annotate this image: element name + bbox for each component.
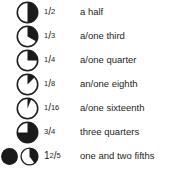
fraction-denominator: 4 [51, 128, 55, 136]
fraction-notation: 1/16 [42, 96, 74, 120]
fraction-row: 1/3a/one third [0, 24, 184, 48]
fraction-label: a/one quarter [74, 48, 184, 72]
fraction-row: 1/2a half [0, 0, 184, 24]
fraction-notation: 1/8 [42, 72, 74, 96]
fraction-label: three quarters [74, 120, 184, 144]
fraction-icon-cell [0, 72, 42, 96]
fraction-label: an/one eighth [74, 72, 184, 96]
fraction-notation: 1/4 [42, 48, 74, 72]
fraction-icon-cell [0, 48, 42, 72]
fraction-denominator: 3 [51, 32, 55, 40]
fraction-icon-cell [0, 96, 42, 120]
fraction-denominator: 16 [51, 104, 59, 112]
fraction-row: 1/8an/one eighth [0, 72, 184, 96]
fraction-denominator: 2 [51, 8, 55, 16]
pie-one-third-icon [16, 25, 39, 48]
fraction-notation: 12/5 [42, 144, 74, 168]
pie-one-sixteenth-icon [16, 97, 39, 120]
pie-one-half-icon [16, 1, 39, 24]
fraction-row: 3/4three quarters [0, 120, 184, 144]
fraction-notation: 1/2 [42, 0, 74, 24]
pie-three-quarters-icon [16, 121, 39, 144]
fraction-row: 1/16a/one sixteenth [0, 96, 184, 120]
pie-one-quarter-icon [16, 49, 39, 72]
fraction-chart: 1/2a half1/3a/one third1/4a/one quarter1… [0, 0, 184, 175]
fraction-label: a/one third [74, 24, 184, 48]
fraction-icon-cell [0, 144, 42, 168]
pie-one-eighth-icon [16, 73, 39, 96]
fraction-notation: 3/4 [42, 120, 74, 144]
fraction-notation: 1/3 [42, 24, 74, 48]
fraction-icon-cell [0, 120, 42, 144]
fraction-label: a half [74, 0, 184, 24]
fraction-denominator: 4 [51, 56, 55, 64]
circle-whole-filled-icon [0, 145, 19, 168]
fraction-denominator: 8 [51, 80, 55, 88]
fraction-denominator: 5 [57, 152, 61, 160]
pie-two-fifths-icon [20, 145, 39, 168]
fraction-icon-cell [0, 0, 42, 24]
fraction-icon-cell [0, 24, 42, 48]
fraction-row: 1/4a/one quarter [0, 48, 184, 72]
fraction-row: 12/5one and two fifths [0, 144, 184, 168]
fraction-label: a/one sixteenth [74, 96, 184, 120]
fraction-label: one and two fifths [74, 144, 184, 168]
